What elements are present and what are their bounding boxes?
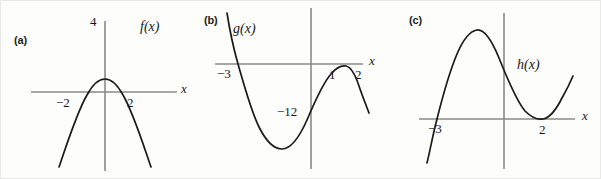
panel-b-plot [197,1,397,179]
curve-h [427,30,573,163]
panel-a-plot [1,1,197,179]
x-tick-label-neg3: −3 [428,121,442,137]
panel-c: (c) −3 2 h(x) x [397,1,601,179]
y-tick-label-neg12: −12 [277,104,297,120]
x-tick-label-2: 2 [355,67,362,83]
panel-label-a: (a) [14,34,27,46]
panel-a: (a) 4 −2 2 f(x) x [1,1,197,179]
x-tick-label-1: 1 [329,67,336,83]
panel-c-plot [397,1,601,179]
panel-label-c: (c) [409,14,422,26]
figure-three-polynomial-graphs: (a) 4 −2 2 f(x) x (b) g(x) −3 1 2 −12 x [0,0,601,179]
x-axis-label: x [582,108,588,124]
panel-b: (b) g(x) −3 1 2 −12 x [197,1,397,179]
x-tick-label-neg2: −2 [56,95,70,111]
curve-label-h: h(x) [517,57,540,73]
y-tick-label-4: 4 [90,14,97,30]
x-tick-label-2: 2 [539,122,546,138]
x-tick-label-neg3: −3 [217,66,231,82]
panel-label-b: (b) [204,14,217,26]
x-axis-label: x [181,81,187,97]
x-tick-label-2: 2 [127,95,134,111]
curve-label-f: f(x) [140,19,159,35]
x-axis-label: x [369,53,375,69]
curve-label-g: g(x) [233,21,256,37]
